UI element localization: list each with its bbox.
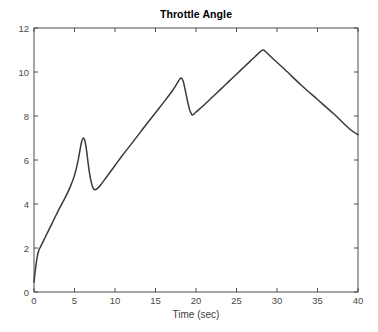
y-tick-label: 2: [6, 243, 29, 254]
x-tick-label: 5: [72, 295, 77, 306]
y-tick-label: 10: [6, 67, 29, 78]
x-tick-label: 25: [231, 295, 242, 306]
x-tick-label: 15: [150, 295, 161, 306]
plot-background: [34, 28, 358, 292]
y-tick-label: 0: [6, 287, 29, 298]
y-tick-label: 8: [6, 111, 29, 122]
plot-canvas: [0, 0, 378, 332]
chart-figure: Throttle Angle 024681012 051015202530354…: [0, 0, 378, 332]
y-tick-label: 12: [6, 23, 29, 34]
x-tick-label: 0: [31, 295, 36, 306]
x-tick-label: 30: [272, 295, 283, 306]
x-axis-label: Time (sec): [34, 309, 358, 320]
x-tick-label: 20: [191, 295, 202, 306]
x-tick-label: 35: [312, 295, 323, 306]
x-tick-label: 40: [353, 295, 364, 306]
y-tick-label: 4: [6, 199, 29, 210]
x-tick-label: 10: [110, 295, 121, 306]
y-tick-label: 6: [6, 155, 29, 166]
